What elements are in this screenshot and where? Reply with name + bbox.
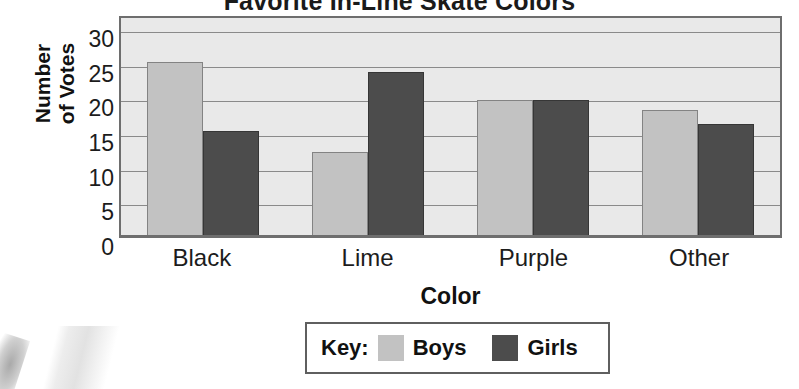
bar-purple-boys bbox=[477, 100, 533, 235]
y-axis-tick-label: 5 bbox=[64, 201, 114, 224]
y-axis-tick-label: 20 bbox=[64, 97, 114, 120]
x-axis-tick-labels: BlackLimePurpleOther bbox=[119, 244, 782, 276]
plot-area bbox=[119, 16, 782, 238]
bar-group bbox=[286, 18, 451, 235]
bar-lime-girls bbox=[368, 72, 424, 235]
x-axis-tick-label-purple: Purple bbox=[451, 244, 617, 276]
bar-group bbox=[451, 18, 616, 235]
scan-artifact-streak bbox=[22, 326, 142, 389]
y-axis-tick-label: 0 bbox=[64, 236, 114, 259]
legend: Key: BoysGirls bbox=[305, 322, 610, 374]
y-axis-tick-label: 25 bbox=[64, 63, 114, 86]
legend-item-boys: Boys bbox=[378, 335, 467, 361]
bar-group bbox=[121, 18, 286, 235]
y-axis-tick-label: 10 bbox=[64, 167, 114, 190]
x-axis-tick-label-lime: Lime bbox=[285, 244, 451, 276]
y-axis-title-line-1: Number bbox=[31, 0, 55, 169]
chart-page: Favorite In-Line Skate Colors Number of … bbox=[0, 0, 799, 389]
y-axis-tick-label: 30 bbox=[64, 28, 114, 51]
bar-other-girls bbox=[698, 124, 754, 235]
x-axis-tick-label-black: Black bbox=[119, 244, 285, 276]
bar-group bbox=[615, 18, 780, 235]
legend-swatch-girls bbox=[492, 335, 518, 361]
y-axis-tick-labels: 051015202530 bbox=[64, 21, 114, 238]
bar-black-boys bbox=[147, 62, 203, 235]
bar-lime-boys bbox=[312, 152, 368, 235]
x-axis-tick-label-other: Other bbox=[616, 244, 782, 276]
y-axis-tick-label: 15 bbox=[64, 132, 114, 155]
legend-label-boys: Boys bbox=[413, 335, 467, 361]
bar-black-girls bbox=[203, 131, 259, 235]
legend-swatch-boys bbox=[378, 335, 404, 361]
legend-entries: BoysGirls bbox=[378, 335, 578, 361]
chart-title: Favorite In-Line Skate Colors bbox=[0, 0, 799, 16]
legend-label-girls: Girls bbox=[527, 335, 577, 361]
bar-other-boys bbox=[642, 110, 698, 235]
bar-purple-girls bbox=[533, 100, 589, 235]
x-axis-title: Color bbox=[119, 283, 782, 310]
bars-layer bbox=[121, 18, 780, 235]
legend-item-girls: Girls bbox=[492, 335, 577, 361]
legend-title: Key: bbox=[321, 335, 369, 361]
